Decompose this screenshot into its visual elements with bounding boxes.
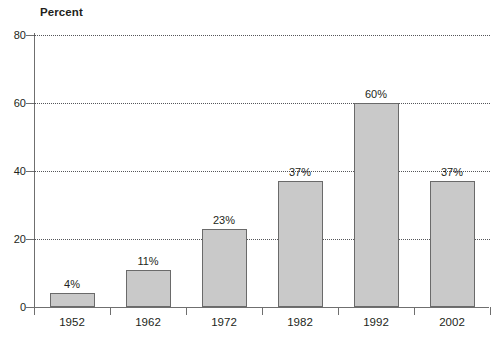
gridline <box>34 103 490 104</box>
gridline <box>34 35 490 36</box>
bar <box>278 181 323 307</box>
bar-value-label: 37% <box>289 166 311 178</box>
x-tick-mark <box>490 307 491 315</box>
y-tick-label: 80 <box>4 29 26 41</box>
bar-value-label: 23% <box>213 214 235 226</box>
gridline <box>34 171 490 172</box>
gridline <box>34 239 490 240</box>
y-tick-label: 0 <box>4 301 26 313</box>
bar <box>202 229 247 307</box>
plot-area: 4%11%23%37%60%37% <box>34 35 490 307</box>
y-axis-title: Percent <box>40 6 83 18</box>
y-axis-ticks: 020406080 <box>0 0 26 340</box>
y-tick-label: 40 <box>4 165 26 177</box>
x-tick-label: 1982 <box>287 316 313 328</box>
x-tick-mark <box>262 307 263 315</box>
bar-value-label: 11% <box>137 255 158 267</box>
x-tick-mark <box>338 307 339 315</box>
x-tick-mark <box>186 307 187 315</box>
y-tick-mark <box>26 239 34 240</box>
y-tick-mark <box>26 35 34 36</box>
bar-value-label: 37% <box>441 166 463 178</box>
x-tick-mark <box>34 307 35 315</box>
bar <box>354 103 399 307</box>
bar <box>126 270 171 307</box>
bar-value-label: 4% <box>64 278 80 290</box>
x-tick-mark <box>110 307 111 315</box>
x-tick-label: 1952 <box>59 316 85 328</box>
bar-chart: Percent 020406080 4%11%23%37%60%37% 1952… <box>0 0 501 340</box>
x-tick-label: 2002 <box>439 316 465 328</box>
x-tick-label: 1972 <box>211 316 237 328</box>
x-tick-label: 1962 <box>135 316 161 328</box>
bar <box>430 181 475 307</box>
bar <box>50 293 95 307</box>
y-tick-mark <box>26 171 34 172</box>
y-tick-label: 60 <box>4 97 26 109</box>
bar-value-label: 60% <box>365 88 387 100</box>
y-tick-label: 20 <box>4 233 26 245</box>
x-tick-mark <box>414 307 415 315</box>
y-tick-mark <box>26 103 34 104</box>
x-tick-label: 1992 <box>363 316 389 328</box>
